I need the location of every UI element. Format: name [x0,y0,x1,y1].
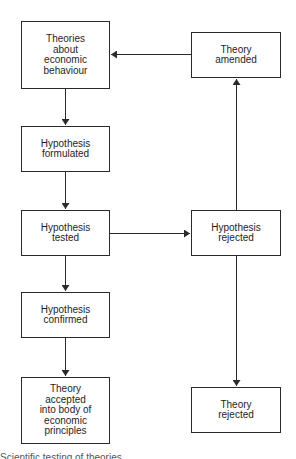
node-label: Theory amended [215,45,257,66]
node-theory-rejected: Theory rejected [191,387,281,433]
node-label: Hypothesis formulated [41,139,90,160]
node-label: Hypothesis confirmed [41,305,90,326]
node-hypothesis-confirmed: Hypothesis confirmed [21,292,110,338]
node-label: Hypothesis tested [41,223,90,244]
node-label: Hypothesis rejected [211,223,260,244]
figure-caption: Scientific testing of theories [0,452,296,459]
node-theory-amended: Theory amended [191,32,281,78]
node-label: Theory accepted into body of economic pr… [40,384,92,437]
node-label: Theories about economic behaviour [44,34,88,76]
flowchart: Theories about economic behaviour Hypoth… [0,0,296,459]
node-hypothesis-tested: Hypothesis tested [21,210,110,256]
node-label: Theory rejected [218,400,254,421]
node-theory-accepted: Theory accepted into body of economic pr… [21,377,110,444]
node-hypothesis-rejected: Hypothesis rejected [191,210,281,256]
node-hypothesis-formulated: Hypothesis formulated [21,126,110,172]
node-theories-about-economic-behaviour: Theories about economic behaviour [21,21,110,89]
